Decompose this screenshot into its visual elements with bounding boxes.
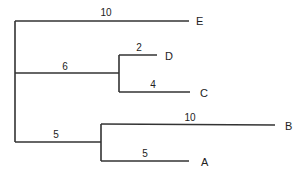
leaf-label-E: E xyxy=(196,15,203,27)
length-label-D: 2 xyxy=(136,42,142,53)
length-label-A: 5 xyxy=(142,148,148,159)
length-label-E: 10 xyxy=(100,7,112,18)
leaf-label-B: B xyxy=(285,120,292,132)
length-label-B: 10 xyxy=(184,112,196,123)
length-label-C: 4 xyxy=(150,79,156,90)
phylogenetic-tree: 10 6 2 4 5 10 5 E D C B A xyxy=(0,0,303,176)
branch-AB-B xyxy=(101,124,275,125)
length-label-DC: 6 xyxy=(62,61,68,72)
leaf-label-C: C xyxy=(200,87,208,99)
length-label-AB: 5 xyxy=(53,129,59,140)
leaf-label-A: A xyxy=(201,156,209,168)
leaf-label-D: D xyxy=(165,50,173,62)
